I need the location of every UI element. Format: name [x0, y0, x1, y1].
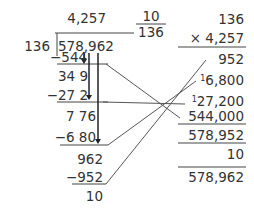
partial-product-1: 952	[180, 51, 244, 67]
step-partial-1: 34 9	[50, 68, 88, 84]
step-partial-2: 7 76	[50, 108, 96, 124]
multiplier: × 4,257	[180, 30, 244, 46]
add-remainder: 10	[180, 146, 244, 162]
partial-product-2: 16,800	[180, 72, 244, 88]
step-subtract-3: −6 80	[40, 129, 96, 145]
divisor: 136	[10, 38, 50, 54]
carry-mark: 1	[200, 74, 205, 83]
final-remainder: 10	[60, 188, 103, 204]
carry-mark: 1	[192, 95, 197, 104]
step-subtract-4: −952	[60, 169, 103, 185]
partial-product-3: 127,200	[180, 93, 244, 109]
remainder-numerator: 10	[136, 8, 166, 24]
quotient: 4,257	[60, 10, 106, 26]
step-subtract-1: −544	[50, 49, 80, 65]
product: 578,952	[180, 127, 244, 143]
partial-product-4: 544,000	[180, 108, 244, 124]
multiplicand: 136	[180, 11, 244, 27]
step-partial-3: 962	[60, 151, 103, 167]
step-subtract-2: −27 2	[40, 87, 88, 103]
total: 578,962	[180, 169, 244, 185]
remainder-denominator: 136	[136, 24, 166, 40]
